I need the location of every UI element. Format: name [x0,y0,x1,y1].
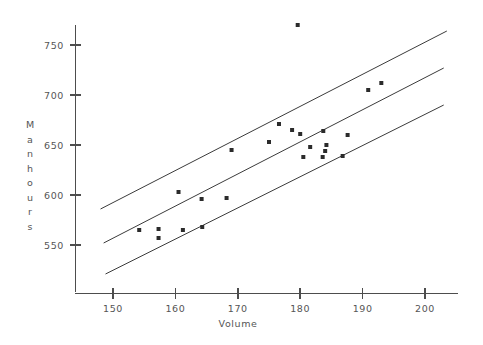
y-tick-label-700: 700 [44,90,64,101]
data-point-18 [321,155,325,159]
y-axis-title-char-0: M [26,119,34,130]
scatter-plot-figure: 150160170180190200 550600650700750 Manho… [0,0,483,345]
data-point-22 [379,81,383,85]
y-tick-label-600: 600 [44,190,64,201]
data-point-13 [321,129,325,133]
data-points [137,23,383,240]
y-tick-label-550: 550 [44,240,64,251]
data-point-15 [308,145,312,149]
data-point-17 [301,155,305,159]
y-axis-title-char-7: s [28,221,33,232]
data-point-6 [200,197,204,201]
x-tick-label-150: 150 [103,303,123,314]
data-point-5 [177,190,181,194]
data-point-19 [341,154,345,158]
x-tick-label-170: 170 [228,303,248,314]
data-point-21 [366,88,370,92]
data-point-23 [296,23,300,27]
data-point-20 [323,149,327,153]
data-point-10 [277,122,281,126]
y-axis-title-char-1: a [27,134,33,145]
y-axis-title-char-6: r [28,206,32,217]
y-axis-title-char-2: n [27,148,33,159]
upper-limit-line [101,31,447,209]
x-tick-label-190: 190 [353,303,373,314]
data-point-8 [230,148,234,152]
x-axis-tick-labels: 150160170180190200 [103,303,435,314]
chart-canvas: 150160170180190200 550600650700750 Manho… [0,0,483,345]
x-tick-label-180: 180 [290,303,310,314]
data-point-0 [137,228,141,232]
data-point-12 [298,132,302,136]
y-axis-title-char-3: h [27,163,33,174]
data-point-1 [157,227,161,231]
x-tick-label-160: 160 [165,303,185,314]
y-tick-label-650: 650 [44,140,64,151]
y-axis-tick-labels: 550600650700750 [44,40,64,251]
x-axis-title-label: Volume [219,318,258,329]
data-point-2 [157,236,161,240]
data-point-7 [225,196,229,200]
data-point-4 [200,225,204,229]
y-axis-title-char-5: u [27,192,33,203]
center-regression-line [104,68,444,243]
y-tick-label-750: 750 [44,40,64,51]
data-point-9 [267,140,271,144]
y-axis-title-char-4: o [27,177,33,188]
data-point-11 [290,128,294,132]
control-band-lines [101,31,447,274]
data-point-16 [324,143,328,147]
data-point-3 [181,228,185,232]
y-axis-title: Manhours [26,119,34,232]
data-point-14 [346,133,350,137]
lower-limit-line [106,105,444,274]
x-tick-label-200: 200 [415,303,435,314]
